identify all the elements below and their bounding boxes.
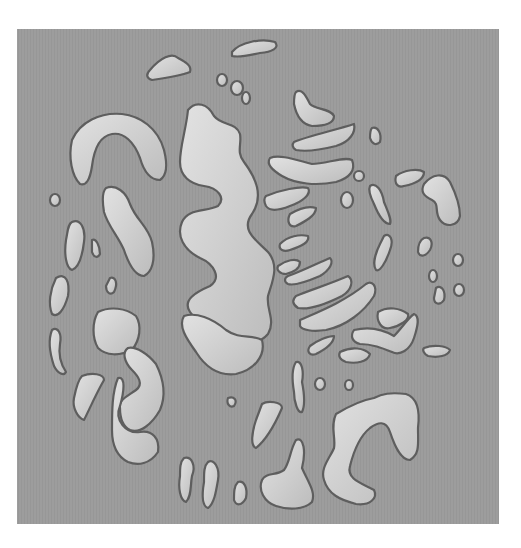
blob (370, 128, 381, 144)
blob-pattern-svg (17, 29, 499, 524)
pattern-image (17, 29, 499, 524)
blob (217, 74, 227, 86)
blob (423, 346, 450, 357)
blob (315, 378, 325, 390)
blob (339, 348, 370, 362)
blob (50, 194, 60, 206)
blob (234, 482, 247, 505)
blob (454, 284, 464, 296)
blob (453, 254, 463, 266)
blob (354, 171, 364, 181)
blob (345, 380, 353, 390)
blob (429, 270, 437, 282)
blob (242, 92, 250, 104)
blob (434, 287, 445, 304)
blob (227, 397, 235, 406)
blob (231, 81, 243, 95)
blob (341, 192, 353, 208)
